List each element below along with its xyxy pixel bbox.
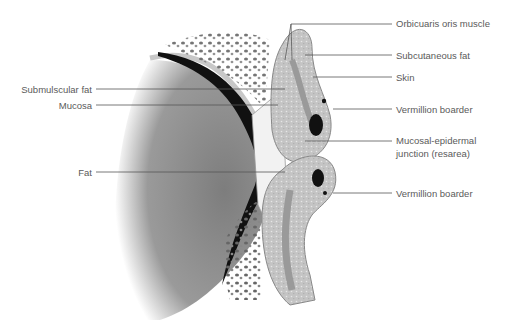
label-skin: Skin xyxy=(396,72,414,83)
label-vermillion-border-upper: Vermillion boarder xyxy=(396,104,473,115)
lip-anatomy-diagram: Orbicuaris oris muscle Subcutaneous fat … xyxy=(0,0,507,324)
illustration xyxy=(0,0,507,324)
upper-lip xyxy=(271,29,331,162)
label-submuscular-fat: Submulscular fat xyxy=(21,84,92,95)
label-vermillion-border-lower: Vermillion boarder xyxy=(396,188,473,199)
lower-lip xyxy=(262,156,336,305)
label-fat: Fat xyxy=(78,167,92,178)
label-mucosa: Mucosa xyxy=(59,100,92,111)
label-mucosal-epidermal-junction-line2: junction (resarea) xyxy=(396,148,470,159)
label-mucosal-epidermal-junction-line1: Mucosal-epidermal xyxy=(396,135,476,146)
label-orbicularis-oris-muscle: Orbicuaris oris muscle xyxy=(396,18,490,29)
label-subcutaneous-fat: Subcutaneous fat xyxy=(396,50,470,61)
